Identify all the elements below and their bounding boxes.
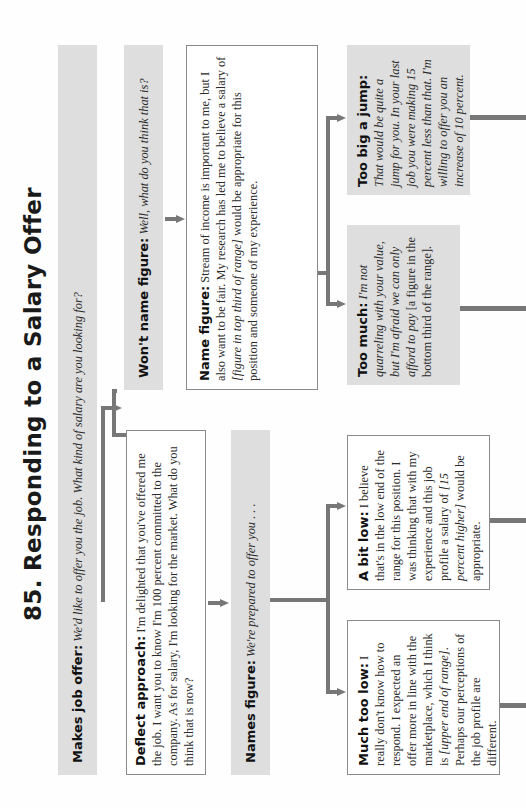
node-label: Name figure: (197, 286, 212, 381)
continuation-stub-too-big (470, 115, 526, 120)
node-deflect-approach: Deflect approach: I'm delighted that you… (126, 430, 206, 775)
node-too-big-a-jump: Too big a jump: That would be quite a ju… (347, 45, 470, 195)
node-text-emphasis: [upper end of range] (437, 650, 451, 754)
node-names-figure: Names figure: We're prepared to offer yo… (231, 430, 270, 775)
node-text: We're prepared to offer you . . . (243, 503, 259, 657)
node-label: Names figure: (243, 660, 259, 763)
node-label: Makes job offer: (70, 645, 86, 763)
connector-deflect-to-wontname-v2 (112, 389, 117, 393)
node-label: Won't name figure: (136, 238, 152, 378)
node-a-bit-low: A bit low: I believe that's in the low e… (347, 435, 490, 590)
node-much-too-low: Much too low: I really don't know how to… (347, 620, 500, 775)
node-text: I believe that's in the low end of the r… (357, 450, 451, 581)
node-text: Well, what do you think that is? (136, 78, 152, 234)
node-text-emphasis: [figure in top third of range] (230, 239, 244, 381)
arrow-head-icon (337, 502, 346, 510)
node-text: We'd like to offer you the job. What kin… (70, 292, 86, 642)
node-label: Too much: (355, 303, 370, 378)
continuation-stub-too-much (460, 306, 526, 311)
connector-names-bar (326, 504, 330, 694)
connector-namefigure-bar (326, 116, 330, 306)
connector-deflect-to-wontname-h (112, 389, 116, 437)
flowchart-page: 85. Responding to a Salary Offer Makes j… (0, 0, 526, 808)
node-label: A bit low: (356, 511, 371, 581)
arrow-head-icon (337, 114, 346, 122)
continuation-stub-much-too-low (500, 703, 526, 708)
arrow-head-icon (220, 599, 229, 607)
arrow-head-icon (337, 688, 346, 696)
node-makes-job-offer: Makes job offer: We'd like to offer you … (58, 45, 97, 775)
page-title: 85. Responding to a Salary Offer (20, 0, 46, 808)
continuation-stub-a-bit-low (490, 518, 526, 523)
node-label: Deflect approach: (133, 636, 148, 766)
node-label: Too big a jump: (355, 75, 370, 187)
node-text: That would be quite a jump for you. In y… (372, 59, 466, 187)
arrow-head-icon (337, 300, 346, 308)
connector-names-stem (270, 598, 326, 602)
connector-namefigure-stem (318, 271, 326, 275)
arrow-head-icon (176, 215, 185, 223)
connector-offer-to-deflect-v (101, 406, 105, 602)
node-too-much: Too much: I'm not quarreling with your v… (347, 225, 460, 385)
node-name-figure: Name figure: Stream of income is importa… (186, 45, 318, 390)
node-label: Much too low: (356, 663, 371, 766)
node-wont-name-figure: Won't name figure: Well, what do you thi… (124, 45, 163, 390)
